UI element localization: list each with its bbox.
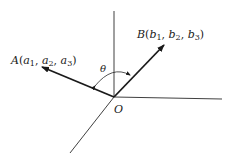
label-b-letter: B [137,28,145,41]
label-a-letter: A [11,54,19,67]
x-axis-line [70,97,114,153]
paren-close: ) [200,28,204,41]
separator: , [181,28,188,41]
separator: , [162,28,169,41]
separator: , [54,54,61,67]
component: b [188,28,195,41]
vector-a-label: A(a1, a2, a3) [11,55,77,68]
component: b [169,28,176,41]
paren-close: ) [72,54,76,67]
vector-b-arrow [114,45,164,97]
angle-theta-label: θ [100,64,106,74]
vector-diagram [0,0,234,163]
origin-label: O [114,104,123,115]
y-axis-line [114,97,222,99]
separator: , [35,54,42,67]
vector-b-label: B(b1, b2, b3) [137,29,204,42]
